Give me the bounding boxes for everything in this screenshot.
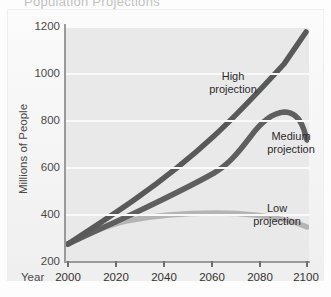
x-tick-mark-2060 bbox=[211, 261, 213, 267]
gridline-600 bbox=[66, 167, 309, 169]
y-tick-200: 200 bbox=[4, 255, 60, 267]
x-tick-mark-2080 bbox=[259, 261, 261, 267]
x-tick-mark-2020 bbox=[115, 261, 117, 267]
series-label-high-line2: projection bbox=[196, 83, 270, 96]
series-label-medium-line2: projection bbox=[254, 143, 328, 156]
y-axis-title: Millions of People bbox=[17, 74, 29, 224]
series-label-medium: Medium projection bbox=[254, 130, 328, 156]
x-tick-mark-2000 bbox=[67, 261, 69, 267]
population-projection-chart: Population Projections Millions of Peopl… bbox=[0, 0, 331, 297]
plot-area: High projection Medium projection Low pr… bbox=[66, 26, 309, 261]
y-tick-1200: 1200 bbox=[4, 20, 60, 32]
series-label-low-line1: Low bbox=[240, 202, 314, 215]
y-tick-400: 400 bbox=[4, 208, 60, 220]
x-tick-2000: 2000 bbox=[55, 271, 81, 283]
series-label-high: High projection bbox=[196, 70, 270, 96]
x-tick-mark-2100 bbox=[306, 261, 308, 267]
gridline-800 bbox=[66, 120, 309, 122]
y-tick-600: 600 bbox=[4, 161, 60, 173]
series-label-medium-line1: Medium bbox=[254, 130, 328, 143]
series-label-high-line1: High bbox=[196, 70, 270, 83]
gridline-1000 bbox=[66, 73, 309, 75]
x-axis-line bbox=[64, 261, 310, 263]
x-tick-2100: 2100 bbox=[293, 271, 319, 283]
y-tick-800: 800 bbox=[4, 114, 60, 126]
y-axis-labels: Millions of People 1200 1000 800 600 400… bbox=[0, 0, 60, 297]
gridline-1200 bbox=[66, 26, 309, 28]
series-label-low: Low projection bbox=[240, 202, 314, 228]
series-label-low-line2: projection bbox=[240, 215, 314, 228]
x-tick-2020: 2020 bbox=[103, 271, 129, 283]
x-tick-2060: 2060 bbox=[199, 271, 225, 283]
x-tick-2080: 2080 bbox=[247, 271, 273, 283]
x-axis-title: Year bbox=[21, 271, 44, 283]
x-tick-mark-2040 bbox=[163, 261, 165, 267]
y-tick-1000: 1000 bbox=[4, 67, 60, 79]
y-axis-line bbox=[64, 24, 66, 263]
x-tick-2040: 2040 bbox=[151, 271, 177, 283]
